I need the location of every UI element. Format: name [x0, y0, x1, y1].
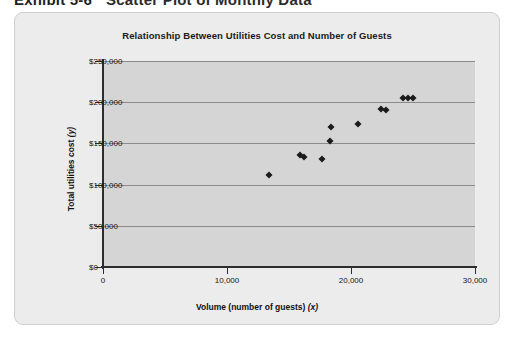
x-axis-tick [351, 267, 352, 274]
x-axis-title-variable: (x) [308, 302, 318, 312]
x-axis-tick-label: 30,000 [463, 276, 487, 285]
y-axis-title: Total utilities cost (y) [66, 126, 76, 210]
x-axis-tick [227, 267, 228, 274]
section-header-text: Scatter Plot of Monthly Data [106, 0, 312, 8]
exhibit-label: Exhibit 5-6 [14, 0, 92, 8]
gridline [103, 102, 475, 103]
gridline [103, 226, 475, 227]
x-axis-tick [475, 267, 476, 274]
gridline [103, 61, 475, 62]
y-axis-title-variable: (y) [66, 126, 76, 136]
x-axis-line [101, 266, 477, 268]
x-axis-title: Volume (number of guests) (x) [15, 302, 499, 312]
x-axis-tick-label: 10,000 [215, 276, 239, 285]
x-axis-title-main: Volume (number of guests) [196, 302, 305, 312]
plot-area [103, 61, 475, 267]
section-header: Exhibit 5-6Scatter Plot of Monthly Data [14, 0, 312, 9]
x-axis-tick-label: 20,000 [339, 276, 363, 285]
x-axis-tick [103, 267, 104, 274]
gridline [103, 185, 475, 186]
plot-wrapper: $0$50,000$100,000$150,000$200,000$250,00… [89, 61, 475, 283]
y-axis-title-main: Total utilities cost [66, 139, 76, 211]
chart-title: Relationship Between Utilities Cost and … [15, 30, 499, 41]
gridline [103, 143, 475, 144]
chart-card: Relationship Between Utilities Cost and … [14, 12, 500, 325]
x-axis-tick-label: 0 [101, 276, 105, 285]
y-axis-line [102, 59, 104, 269]
